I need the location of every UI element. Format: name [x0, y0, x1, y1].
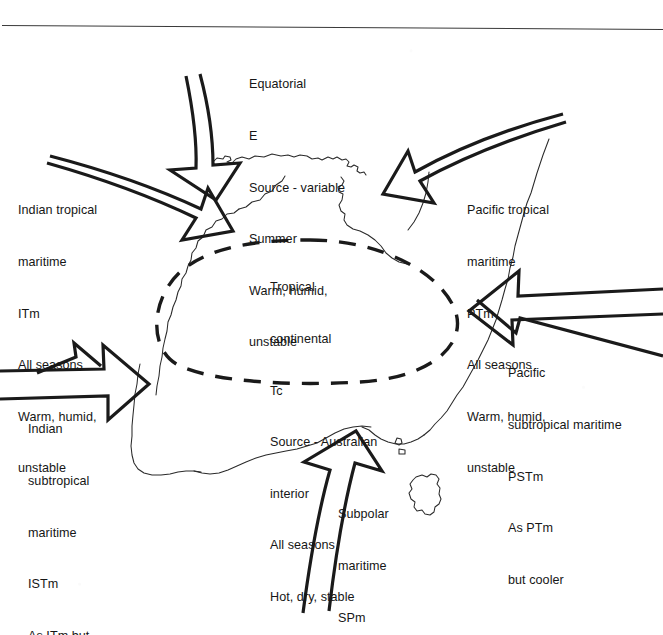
arrow-equatorial: [170, 74, 240, 200]
label-pstm-line-1: subtropical maritime: [508, 417, 622, 434]
diagram-canvas: Equatorial E Source - variable Summer Wa…: [0, 0, 663, 635]
label-tc-line-0: Tropical: [270, 279, 377, 296]
label-equatorial-line-1: E: [249, 128, 345, 145]
page-frame: [2, 26, 663, 30]
label-equatorial-line-2: Source - variable: [249, 180, 345, 197]
label-pacific-subtropical-maritime: Pacific subtropical maritime PSTm As PTm…: [508, 331, 622, 623]
label-equatorial-line-0: Equatorial: [249, 76, 345, 93]
label-istm-line-0: Indian: [28, 421, 89, 438]
label-istm-line-2: maritime: [28, 525, 89, 542]
label-itm-line-2: ITm: [18, 306, 97, 323]
label-pstm-line-2: PSTm: [508, 469, 622, 486]
label-ptm-line-2: PTm: [467, 306, 549, 323]
label-tc-line-2: Tc: [270, 383, 377, 400]
label-indian-subtropical-maritime: Indian subtropical maritime ISTm As ITm …: [28, 387, 89, 635]
label-spm-line-1: maritime: [338, 558, 443, 575]
label-istm-line-4: As ITm but: [28, 628, 89, 635]
label-istm-line-3: ISTm: [28, 576, 89, 593]
label-subpolar-maritime: Subpolar maritime SPm Source - Southern …: [338, 472, 443, 635]
label-tc-line-3: Source - Australian: [270, 434, 377, 451]
label-itm-line-3: All seasons: [18, 357, 97, 374]
label-tc-line-1: continental: [270, 331, 377, 348]
label-ptm-line-1: maritime: [467, 254, 549, 271]
label-pstm-line-0: Pacific: [508, 365, 622, 382]
label-spm-line-2: SPm: [338, 610, 443, 627]
label-pstm-line-3: As PTm: [508, 520, 622, 537]
label-spm-line-0: Subpolar: [338, 506, 443, 523]
label-pstm-line-4: but cooler: [508, 572, 622, 589]
label-istm-line-1: subtropical: [28, 473, 89, 490]
label-ptm-line-0: Pacific tropical: [467, 202, 549, 219]
label-itm-line-1: maritime: [18, 254, 97, 271]
label-itm-line-0: Indian tropical: [18, 202, 97, 219]
